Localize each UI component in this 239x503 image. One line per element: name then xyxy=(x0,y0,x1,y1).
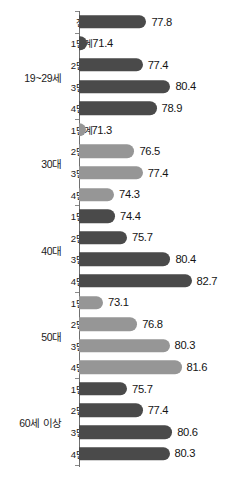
bar xyxy=(79,123,86,137)
age-group-label: 30대 xyxy=(0,156,62,171)
bar-with-value: 76.8 xyxy=(79,317,163,331)
bar xyxy=(79,101,157,115)
bar-with-value: 77.4 xyxy=(79,166,168,180)
bar-value-label: 75.7 xyxy=(132,383,153,395)
bar xyxy=(79,404,143,418)
bar-value-label: 71.3 xyxy=(91,124,112,136)
bar-with-value: 77.4 xyxy=(79,58,168,72)
bar-value-label: 73.1 xyxy=(108,297,129,309)
bar-value-label: 77.8 xyxy=(151,16,172,28)
bar-with-value: 81.6 xyxy=(79,361,207,375)
bar xyxy=(79,361,182,375)
bar-row: 1단계74.4 xyxy=(0,205,239,227)
bar xyxy=(79,15,146,29)
axis-tick xyxy=(75,33,80,34)
age-group-label: 50대 xyxy=(0,329,62,344)
axis-tick xyxy=(75,11,80,12)
age-group-label: 40대 xyxy=(0,243,62,258)
age-group-label: 60세 이상 xyxy=(0,415,62,430)
bar-with-value: 74.3 xyxy=(79,188,140,202)
axis-tick xyxy=(75,465,80,466)
bar xyxy=(79,80,170,94)
bar-with-value: 77.4 xyxy=(79,404,168,418)
bar-value-label: 78.9 xyxy=(162,102,183,114)
bar-with-value: 82.7 xyxy=(79,274,217,288)
bar xyxy=(79,209,115,223)
bar-row: 1단계75.7 xyxy=(0,378,239,400)
bar xyxy=(79,317,137,331)
bar xyxy=(79,274,192,288)
bar xyxy=(79,166,143,180)
axis-tick xyxy=(75,378,80,379)
bar-value-label: 81.6 xyxy=(187,361,208,373)
bar-value-label: 74.4 xyxy=(120,210,141,222)
bar-with-value: 71.4 xyxy=(79,37,113,51)
age-group-label: 19~29세 xyxy=(0,70,62,85)
bar-row: 4단계78.9 xyxy=(0,97,239,119)
bar-with-value: 71.3 xyxy=(79,123,112,137)
bar-with-value: 80.3 xyxy=(79,339,195,353)
horizontal-bar-chart: 전체77.81단계71.42단계77.43단계80.44단계78.919~29세… xyxy=(0,0,239,503)
bar xyxy=(79,145,134,159)
bar-value-label: 80.4 xyxy=(175,253,196,265)
bar-value-label: 76.8 xyxy=(142,318,163,330)
bar-value-label: 80.4 xyxy=(175,81,196,93)
bar-with-value: 78.9 xyxy=(79,101,182,115)
bar-with-value: 80.4 xyxy=(79,80,196,94)
bar-with-value: 75.7 xyxy=(79,231,153,245)
bar-row: 4단계81.6 xyxy=(0,357,239,379)
axis-tick xyxy=(75,292,80,293)
bar-with-value: 80.3 xyxy=(79,447,195,461)
bar xyxy=(79,382,127,396)
bar-with-value: 73.1 xyxy=(79,296,129,310)
bar-rows-container: 전체77.81단계71.42단계77.43단계80.44단계78.919~29세… xyxy=(0,11,239,464)
bar xyxy=(79,296,103,310)
bar xyxy=(79,231,127,245)
bar-value-label: 71.4 xyxy=(92,37,113,49)
bar-with-value: 76.5 xyxy=(79,145,160,159)
bar xyxy=(79,58,143,72)
bar-row: 1단계73.1 xyxy=(0,292,239,314)
bar xyxy=(79,253,170,267)
bar-row: 4단계82.7 xyxy=(0,270,239,292)
bar-with-value: 80.4 xyxy=(79,253,196,267)
bar-with-value: 74.4 xyxy=(79,209,141,223)
bar-value-label: 80.3 xyxy=(175,448,196,460)
bar-row: 전체77.8 xyxy=(0,11,239,33)
bar-value-label: 74.3 xyxy=(119,189,140,201)
bar-value-label: 77.4 xyxy=(148,59,169,71)
bar xyxy=(79,339,170,353)
bar xyxy=(79,447,170,461)
bar-with-value: 75.7 xyxy=(79,382,153,396)
bar xyxy=(79,188,114,202)
bar-with-value: 77.8 xyxy=(79,15,172,29)
bar-value-label: 80.6 xyxy=(177,426,198,438)
axis-tick xyxy=(75,119,80,120)
bar-value-label: 77.4 xyxy=(148,404,169,416)
bar-row: 1단계71.4 xyxy=(0,33,239,55)
bar xyxy=(79,425,172,439)
bar-value-label: 76.5 xyxy=(139,145,160,157)
bar-row: 4단계80.3 xyxy=(0,443,239,465)
bar xyxy=(79,37,87,51)
bar-value-label: 80.3 xyxy=(175,340,196,352)
axis-tick xyxy=(75,205,80,206)
bar-row: 4단계74.3 xyxy=(0,184,239,206)
bar-value-label: 75.7 xyxy=(132,232,153,244)
bar-row: 1단계71.3 xyxy=(0,119,239,141)
bar-value-label: 77.4 xyxy=(148,167,169,179)
bar-with-value: 80.6 xyxy=(79,425,198,439)
bar-value-label: 82.7 xyxy=(197,275,218,287)
